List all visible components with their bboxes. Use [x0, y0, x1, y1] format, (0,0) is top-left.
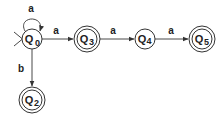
state-label: Q [138, 33, 147, 45]
state-index: 3 [89, 37, 94, 47]
transition-label: b [18, 63, 24, 74]
transition-q3-q4: a [100, 25, 134, 39]
state-label: Q [195, 33, 204, 45]
state-q2: Q 2 [19, 87, 45, 113]
transition-label: a [53, 25, 59, 36]
state-index: 2 [34, 98, 39, 108]
transition-q0-q2: b [18, 49, 32, 86]
transition-label: a [168, 25, 174, 36]
state-q0: Q 0 [22, 29, 42, 49]
state-q3: Q 3 [74, 26, 100, 52]
state-index: 5 [204, 37, 209, 47]
state-q5: Q 5 [189, 26, 215, 52]
start-arrow-icon [14, 32, 23, 46]
state-label: Q [25, 94, 34, 106]
state-label: Q [80, 33, 89, 45]
transition-q4-q5: a [155, 25, 188, 39]
transition-label: a [110, 25, 116, 36]
transition-label: a [28, 3, 34, 14]
state-index: 4 [146, 36, 151, 46]
state-index: 0 [35, 38, 40, 48]
transition-q0-q3: a [42, 25, 73, 39]
transition-q0-q0: a [24, 3, 41, 31]
state-q4: Q 4 [135, 29, 155, 49]
state-label: Q [25, 33, 34, 45]
automaton-diagram: a a a a b Q 0 Q 3 Q 4 Q [0, 0, 223, 120]
